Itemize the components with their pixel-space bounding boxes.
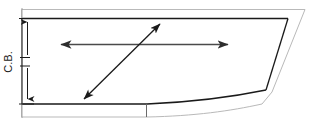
cb-label: C.B. [2, 51, 14, 72]
diagonal-bias-arrow [84, 24, 160, 99]
diagram-canvas: C.B. [0, 0, 314, 126]
technical-drawing: C.B. [0, 0, 314, 126]
outer-bottom-edge [22, 104, 263, 117]
inner-outline [22, 19, 288, 105]
inner-bottom-edge [22, 90, 266, 104]
outer-outline [22, 10, 306, 118]
outer-right-lower-edge [262, 92, 272, 104]
outer-right-upper-edge [272, 10, 305, 93]
